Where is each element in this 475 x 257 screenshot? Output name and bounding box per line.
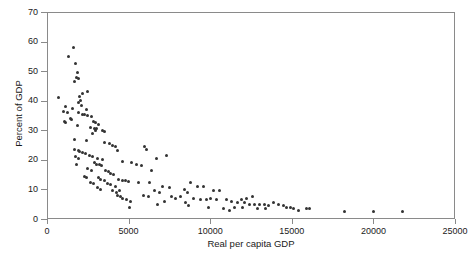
data-point bbox=[258, 203, 261, 206]
data-point bbox=[112, 173, 115, 176]
data-point bbox=[109, 183, 112, 186]
data-point bbox=[165, 154, 168, 157]
data-point bbox=[263, 203, 266, 206]
data-point bbox=[199, 198, 202, 201]
data-point bbox=[80, 104, 83, 107]
data-point bbox=[116, 149, 119, 152]
y-tick-label-wrap: 70 bbox=[0, 8, 38, 17]
data-point bbox=[103, 179, 106, 182]
y-tick-label-wrap: 60 bbox=[0, 37, 38, 46]
data-point bbox=[212, 189, 215, 192]
data-point bbox=[127, 180, 130, 183]
x-tick-mark bbox=[210, 219, 211, 224]
data-point bbox=[137, 181, 140, 184]
plot-area bbox=[47, 12, 455, 219]
x-tick-label: 25000 bbox=[425, 226, 475, 236]
data-point bbox=[62, 110, 65, 113]
data-point bbox=[76, 124, 79, 127]
data-point bbox=[163, 200, 166, 203]
data-point bbox=[121, 197, 124, 200]
data-point bbox=[92, 182, 95, 185]
data-point bbox=[99, 188, 102, 191]
data-point bbox=[114, 145, 117, 148]
y-tick-mark bbox=[41, 42, 47, 43]
data-point bbox=[292, 207, 295, 210]
y-tick-mark bbox=[41, 12, 47, 13]
data-point bbox=[142, 194, 145, 197]
data-point bbox=[218, 189, 221, 192]
data-point bbox=[158, 191, 161, 194]
y-tick-mark bbox=[41, 189, 47, 190]
data-point bbox=[99, 178, 102, 181]
x-tick-mark bbox=[129, 219, 130, 224]
data-point bbox=[103, 141, 106, 144]
data-point bbox=[267, 204, 270, 207]
data-point bbox=[372, 210, 375, 213]
y-tick-mark bbox=[41, 101, 47, 102]
data-point bbox=[77, 101, 80, 104]
data-point bbox=[264, 207, 267, 210]
data-point bbox=[186, 191, 189, 194]
data-point bbox=[64, 121, 67, 124]
data-point bbox=[103, 130, 106, 133]
data-point bbox=[118, 189, 121, 192]
data-point bbox=[225, 198, 228, 201]
data-point bbox=[89, 126, 92, 129]
data-point bbox=[256, 207, 259, 210]
data-point bbox=[174, 197, 177, 200]
data-point bbox=[230, 200, 233, 203]
data-point bbox=[72, 46, 75, 49]
data-point bbox=[91, 155, 94, 158]
data-point bbox=[111, 189, 114, 192]
data-point bbox=[57, 96, 60, 99]
x-tick-label: 0 bbox=[17, 226, 77, 236]
data-point bbox=[85, 139, 88, 142]
data-point bbox=[253, 203, 256, 206]
data-point bbox=[94, 129, 97, 132]
data-point bbox=[243, 201, 246, 204]
data-point bbox=[117, 178, 120, 181]
data-point bbox=[86, 90, 89, 93]
data-point bbox=[168, 186, 171, 189]
data-point bbox=[70, 118, 73, 121]
data-point bbox=[187, 204, 190, 207]
x-tick-mark bbox=[47, 219, 48, 224]
data-point bbox=[183, 188, 186, 191]
data-point bbox=[140, 164, 143, 167]
data-point bbox=[150, 169, 153, 172]
x-tick-mark bbox=[373, 219, 374, 224]
data-point bbox=[78, 95, 81, 98]
data-point bbox=[97, 123, 100, 126]
data-point bbox=[148, 181, 151, 184]
data-point bbox=[84, 152, 87, 155]
data-point bbox=[222, 207, 225, 210]
y-tick-label-wrap: 10 bbox=[0, 185, 38, 194]
data-point bbox=[101, 158, 104, 161]
data-point bbox=[96, 157, 99, 160]
data-point bbox=[277, 203, 280, 206]
y-tick-label: 0 bbox=[8, 215, 38, 224]
x-tick-mark bbox=[455, 219, 456, 224]
x-tick-label: 5000 bbox=[99, 226, 159, 236]
data-point bbox=[179, 195, 182, 198]
scatter-chart-figure: 010203040506070 050001000015000200002500… bbox=[0, 0, 475, 257]
data-point bbox=[202, 185, 205, 188]
data-point bbox=[85, 108, 88, 111]
data-point bbox=[343, 210, 346, 213]
data-point bbox=[86, 114, 89, 117]
data-point bbox=[196, 185, 199, 188]
data-point bbox=[130, 161, 133, 164]
data-point bbox=[128, 206, 131, 209]
data-point bbox=[245, 197, 248, 200]
y-tick-label-wrap: 0 bbox=[0, 215, 38, 224]
data-point bbox=[209, 197, 212, 200]
data-point bbox=[75, 163, 78, 166]
data-point bbox=[161, 185, 164, 188]
data-point bbox=[272, 201, 275, 204]
y-tick-label: 70 bbox=[8, 8, 38, 17]
y-tick-label: 60 bbox=[8, 37, 38, 46]
data-point bbox=[147, 195, 150, 198]
data-point bbox=[205, 198, 208, 201]
data-point bbox=[215, 198, 218, 201]
data-point bbox=[153, 189, 156, 192]
